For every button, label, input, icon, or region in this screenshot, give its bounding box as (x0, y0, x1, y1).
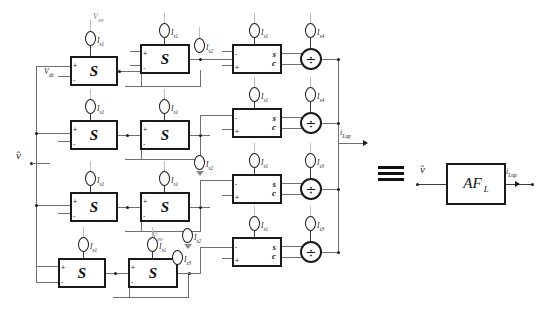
output-bus-dot-1 (337, 58, 340, 61)
row3-s1-oval-wire (90, 186, 91, 192)
row2-s2-feedback-bottom (125, 159, 201, 160)
row3-sc-summing-oval (249, 153, 260, 168)
row2-divider-block[interactable]: ÷ (300, 112, 322, 134)
row2-s1-plus-terminal: + (73, 126, 77, 133)
row4-mid-summing-oval-1 (182, 228, 193, 243)
row3-divider-block[interactable]: ÷ (300, 178, 322, 200)
row3-sc-block[interactable]: s c (232, 174, 282, 204)
row2-s2-oval-top-wire (164, 89, 165, 99)
row2-input-wire (36, 133, 70, 134)
row1-s2-feedback-bottom (125, 86, 201, 87)
row2-s1-oval-label: Is1 (97, 105, 104, 115)
row1-sc-plus-terminal: + (235, 64, 239, 71)
row3-s2-oval-top-wire (164, 161, 165, 171)
row4-sc-oval-top-wire (254, 206, 255, 216)
row2-s2-feedback-left (141, 150, 142, 159)
row3-sc-riser (200, 180, 201, 207)
row1-sc-block[interactable]: s c (232, 44, 282, 74)
row2-sc-oval-wire (254, 102, 255, 108)
row4-s2-minus-terminal: - (131, 278, 133, 285)
row3-div-out-wire (322, 189, 338, 190)
output-current-label: iLup (340, 129, 351, 139)
row3-s1-minus-terminal: - (73, 212, 75, 219)
row1-s2-summing-oval (159, 23, 170, 38)
row4-s-block-1[interactable]: S (58, 258, 106, 288)
row4-sc-block[interactable]: s c (232, 237, 282, 267)
equiv-output-dot (531, 183, 534, 186)
row3-sc-text: s c (272, 180, 276, 198)
row2-s-block-2[interactable]: S (140, 120, 190, 150)
row1-s2-plus-terminal: + (143, 50, 147, 57)
row2-s-block-1[interactable]: S (70, 120, 118, 150)
row3-s1-plus-terminal: + (73, 198, 77, 205)
row2-s2-oval-wire (164, 114, 165, 120)
row1-sc-minus-terminal: - (235, 50, 237, 57)
row2-sc-minus-terminal: - (235, 114, 237, 121)
output-bus-dot-3 (337, 188, 340, 191)
row1-s1-plus-terminal: + (73, 62, 77, 69)
output-bus-dot-4 (337, 251, 340, 254)
row3-s1-to-s2-wire (118, 207, 140, 208)
row3-s-block-1[interactable]: S (70, 192, 118, 222)
row4-input-wire (36, 266, 58, 267)
row1-s2-oval-label: Is1 (171, 29, 178, 39)
row4-s2-plus-terminal: + (131, 264, 135, 271)
row1-s1-oval-label: Is1 (97, 37, 104, 47)
row1-s-block-2[interactable]: S (140, 44, 190, 74)
row3-s2-oval-label: Is1 (171, 177, 178, 187)
row1-s1-out-dot (118, 70, 121, 73)
row4-sc-plus-terminal: + (235, 257, 239, 264)
row1-s-block-1[interactable]: S (70, 56, 118, 86)
row3-div-oval-wire (310, 168, 311, 178)
row4-divider-block[interactable]: ÷ (300, 241, 322, 263)
row3-s-block-2[interactable]: S (140, 192, 190, 222)
row1-sc-plus-wire (222, 65, 232, 66)
row2-sc-to-div-wire-bottom (282, 128, 302, 129)
row4-sc-minus-terminal: - (235, 243, 237, 250)
equiv-output-arrowhead-icon (515, 181, 520, 187)
row1-s2-plus-wire (130, 51, 140, 52)
row3-s2-oval-wire (164, 186, 165, 192)
row4-s1-to-s2-wire (106, 273, 128, 274)
row3-sc-oval-wire (254, 168, 255, 174)
row1-s2-to-sc-wire (190, 59, 232, 60)
equivalent-af-block[interactable]: AFL (446, 163, 506, 205)
row1-s2-feedback-left (141, 74, 142, 86)
row4-s-block-2[interactable]: S (128, 258, 178, 288)
equivalence-icon (378, 166, 404, 182)
row2-s1-oval-top-wire (90, 89, 91, 99)
row2-sc-text: s c (272, 114, 276, 132)
row3-sc-to-div-wire-top (282, 183, 302, 184)
row2-s1-minus-wire (58, 141, 70, 142)
row4-sc-text: s c (272, 243, 276, 261)
row4-s1-minus-terminal: - (61, 278, 63, 285)
row1-s2-minus-terminal: - (143, 64, 145, 71)
row4-s1-oval-label: Is1 (90, 243, 97, 253)
output-bus (338, 59, 339, 253)
row2-sc-block[interactable]: s c (232, 108, 282, 138)
row1-sc-to-div-wire-bottom (282, 64, 302, 65)
row3-div-oval-label: Is3 (317, 159, 324, 169)
row3-s1-oval-top-wire (90, 161, 91, 171)
row3-mid-summing-oval (194, 155, 205, 170)
row2-s2-plus-terminal: + (143, 126, 147, 133)
row2-sc-feed-wire (200, 115, 232, 116)
row3-s2-summing-oval (159, 171, 170, 186)
row2-sc-to-div-wire-top (282, 117, 302, 118)
row2-sc-oval-label: Is1 (261, 93, 268, 103)
row3-sc-oval-top-wire (254, 143, 255, 153)
row3-input-dot (35, 204, 38, 207)
row1-mid-oval-top-wire (199, 27, 200, 38)
row2-sc-plus-wire (222, 129, 232, 130)
row1-divider-block[interactable]: ÷ (300, 48, 322, 70)
row4-sc-to-div-wire-top (282, 246, 302, 247)
row1-div-out-wire (322, 59, 338, 60)
row3-s1-out-dot (126, 206, 129, 209)
row1-s2-minus-wire (130, 65, 140, 66)
row2-s1-to-s2-wire (118, 135, 140, 136)
row4-s2-oval-top-wire (152, 227, 153, 237)
row4-s2-feedback-bottom (113, 297, 189, 298)
left-input-bus (36, 66, 37, 266)
input-vhat-label: v̂ (16, 150, 21, 161)
row2-s2-minus-terminal: - (143, 140, 145, 147)
